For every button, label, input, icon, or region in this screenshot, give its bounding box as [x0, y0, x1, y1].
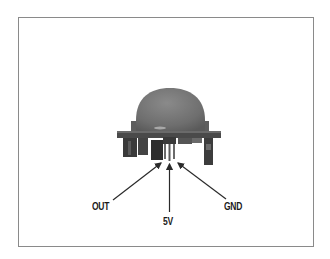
label-5v: 5V: [163, 216, 173, 227]
arrow-gnd: [178, 163, 226, 199]
pcb-board: [117, 131, 221, 138]
pin-pointer-arrows: [113, 163, 226, 212]
pin-5v: [169, 144, 171, 161]
label-gnd: GND: [224, 201, 242, 212]
pin-out: [164, 144, 166, 159]
label-out: OUT: [92, 201, 109, 212]
pin-gnd: [173, 144, 175, 159]
header-pins: [163, 137, 176, 161]
arrow-out: [113, 163, 161, 200]
fresnel-dome: [131, 88, 209, 131]
